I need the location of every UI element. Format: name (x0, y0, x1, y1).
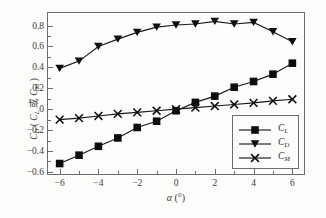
legend-label: CL (278, 123, 288, 134)
data-point-marker (55, 65, 64, 72)
x-tick-label: 2 (212, 178, 217, 188)
data-point-marker (269, 28, 278, 35)
data-point-marker (56, 160, 64, 168)
y-tick-label: 0.8 (32, 21, 44, 31)
y-axis-title-close-paren: ) (29, 78, 39, 81)
data-point-marker (95, 142, 103, 150)
data-point-marker (114, 134, 122, 142)
data-point-marker (250, 78, 258, 86)
legend-entry[interactable]: CM (238, 149, 290, 163)
data-point-marker (133, 124, 141, 132)
series-cd (55, 18, 296, 72)
y-axis-title-alt1-symbol: C (29, 114, 39, 120)
y-axis-title-conjunction: 或 (29, 98, 39, 108)
x-axis-title-symbol: α (167, 192, 172, 203)
data-point-marker (153, 117, 161, 125)
legend-label: CM (278, 151, 290, 162)
data-point-marker (230, 83, 238, 91)
legend-marker-sample (238, 150, 272, 162)
legend-marker-sample (238, 122, 272, 134)
y-tick-label: 0.2 (32, 83, 44, 93)
legend-entry[interactable]: CL (238, 121, 290, 135)
data-point-marker (133, 29, 142, 36)
y-tick-label: −0.4 (27, 146, 44, 156)
data-point-marker (172, 107, 180, 115)
data-point-marker (269, 70, 277, 78)
legend-marker-sample (238, 136, 272, 148)
plot-frame: −0.6−0.4−0.200.20.40.60.8 −6−4−20246 CLC… (47, 12, 305, 175)
data-point-marker (75, 151, 83, 159)
y-tick-label: −0.2 (27, 125, 44, 135)
y-tick-label: 0.4 (32, 62, 44, 72)
data-point-marker (288, 38, 297, 45)
data-point-marker (289, 59, 297, 67)
legend-box: CLCDCM (232, 115, 299, 169)
x-tick-label: −6 (55, 178, 65, 188)
x-axis-title-unit: (°) (175, 192, 186, 203)
figure-canvas: CD ( CL 或 CM ) α (°) −0.6−0.4−0.200.20.4… (0, 0, 326, 218)
legend-label: CD (278, 137, 289, 148)
x-axis-title: α (°) (47, 192, 305, 203)
x-tick-label: 6 (290, 178, 295, 188)
y-tick-label: 0.6 (32, 41, 44, 51)
x-tick-label: −4 (93, 178, 103, 188)
x-tick-label: 4 (251, 178, 256, 188)
x-tick-label: −2 (132, 178, 142, 188)
x-tick-label: 0 (174, 178, 179, 188)
legend-entry[interactable]: CD (238, 135, 290, 149)
data-point-marker (211, 92, 219, 100)
data-point-marker (75, 57, 84, 64)
y-tick-label: 0 (39, 104, 44, 114)
y-tick-label: −0.6 (27, 167, 44, 177)
data-point-marker (114, 35, 123, 42)
